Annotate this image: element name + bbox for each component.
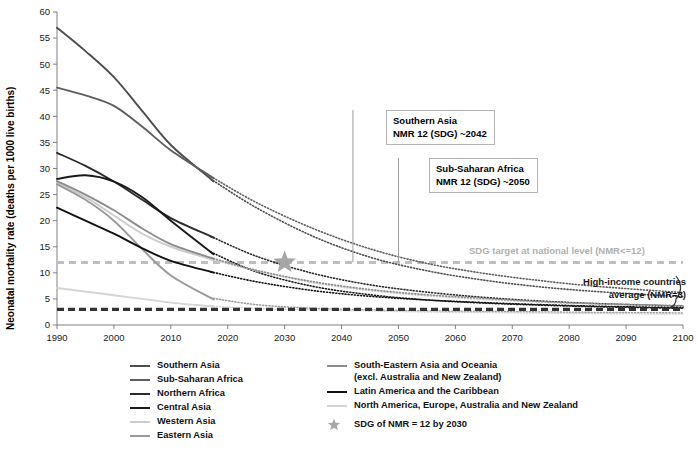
legend-item-label: Western Asia: [157, 416, 215, 428]
legend-item-label: Sub-Saharan Africa: [157, 374, 243, 386]
y-tick-label: 60: [39, 6, 50, 17]
y-tick-label: 0: [45, 319, 50, 330]
legend-item-r1[interactable]: Latin America and the Caribbean: [327, 386, 697, 398]
legend-swatch: [130, 430, 150, 441]
x-tick-label: 2060: [445, 332, 466, 343]
y-tick-label: 15: [39, 241, 50, 252]
series-line-observed-5: [57, 184, 214, 299]
chart-root: Neonatal mortality rate (deaths per 1000…: [0, 0, 698, 455]
high-income-note-line1: High-income countries: [536, 276, 686, 289]
annotation-southern-asia-line1: Southern Asia: [393, 115, 487, 128]
annotation-southern-asia: Southern Asia NMR 12 (SDG) ~2042: [386, 110, 495, 145]
legend-item-sdg-star[interactable]: SDG of NMR = 12 by 2030: [327, 418, 697, 431]
legend-item-1[interactable]: Sub-Saharan Africa: [130, 374, 330, 386]
legend-swatch: [130, 416, 150, 427]
annotation-sub-saharan-line1: Sub-Saharan Africa: [436, 163, 530, 176]
y-tick-label: 55: [39, 32, 50, 43]
legend-item-label: Eastern Asia: [157, 430, 213, 442]
x-tick-label: 2090: [616, 332, 637, 343]
x-tick-label: 2050: [388, 332, 409, 343]
legend-column-left: Southern AsiaSub-Saharan AfricaNorthern …: [130, 360, 330, 444]
legend-swatch: [130, 374, 150, 385]
high-income-note: High-income countries average (NMR=3): [536, 276, 686, 301]
legend-item-label: Southern Asia: [157, 360, 220, 372]
annotation-sub-saharan: Sub-Saharan Africa NMR 12 (SDG) ~2050: [429, 158, 538, 193]
y-tick-label: 5: [45, 293, 50, 304]
legend-star-icon: [327, 418, 347, 430]
y-tick-label: 30: [39, 163, 50, 174]
x-tick-label: 2100: [672, 332, 693, 343]
x-tick-label: 2080: [559, 332, 580, 343]
legend-swatch: [130, 402, 150, 413]
y-tick-label: 35: [39, 137, 50, 148]
sdg-star-marker: [273, 250, 296, 272]
legend-item-5[interactable]: Eastern Asia: [130, 430, 330, 442]
legend-item-4[interactable]: Western Asia: [130, 416, 330, 428]
y-tick-label: 45: [39, 85, 50, 96]
legend-item-3[interactable]: Central Asia: [130, 402, 330, 414]
legend-swatch: [327, 360, 347, 371]
legend-item-label: South-Eastern Asia and Oceania(excl. Aus…: [354, 360, 501, 383]
y-tick-label: 20: [39, 215, 50, 226]
legend-item-0[interactable]: Southern Asia: [130, 360, 330, 372]
x-tick-label: 2020: [217, 332, 238, 343]
legend-swatch: [327, 386, 347, 397]
y-tick-label: 50: [39, 59, 50, 70]
x-tick-label: 2000: [103, 332, 124, 343]
x-tick-label: 2040: [331, 332, 352, 343]
x-tick-label: 2030: [274, 332, 295, 343]
legend-item-label: Central Asia: [157, 402, 211, 414]
legend-item-label: Latin America and the Caribbean: [354, 386, 499, 398]
legend-item-label: SDG of NMR = 12 by 2030: [354, 418, 467, 431]
legend-item-label-line2: (excl. Australia and New Zealand): [354, 372, 501, 384]
legend-swatch: [327, 400, 347, 411]
x-tick-label: 2070: [502, 332, 523, 343]
legend-item-r0[interactable]: South-Eastern Asia and Oceania(excl. Aus…: [327, 360, 697, 383]
annotation-sub-saharan-line2: NMR 12 (SDG) ~2050: [436, 176, 530, 189]
legend-swatch: [130, 388, 150, 399]
series-line-observed-8: [57, 288, 214, 307]
legend-item-label: Northern Africa: [157, 388, 225, 400]
legend-item-label: North America, Europe, Australia and New…: [354, 400, 578, 412]
sdg-target-note: SDG target at national level (NMR<=12): [469, 245, 645, 256]
annotation-southern-asia-line2: NMR 12 (SDG) ~2042: [393, 128, 487, 141]
legend-column-right: South-Eastern Asia and Oceania(excl. Aus…: [327, 360, 697, 434]
series-line-observed-0: [57, 28, 214, 182]
legend-item-r2[interactable]: North America, Europe, Australia and New…: [327, 400, 697, 412]
y-tick-label: 25: [39, 189, 50, 200]
x-tick-label: 1990: [46, 332, 67, 343]
y-tick-label: 10: [39, 267, 50, 278]
legend-swatch: [130, 360, 150, 371]
legend-item-2[interactable]: Northern Africa: [130, 388, 330, 400]
y-tick-label: 40: [39, 111, 50, 122]
x-tick-label: 2010: [160, 332, 181, 343]
high-income-note-line2: average (NMR=3): [536, 289, 686, 302]
